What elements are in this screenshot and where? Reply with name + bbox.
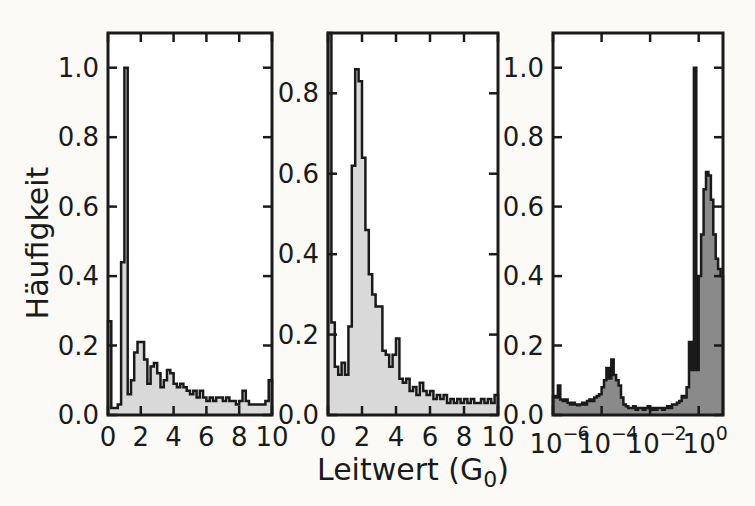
panel-histogram-linear-1 — [108, 33, 272, 415]
histogram-linear-2-ytick-label: 0.4 — [278, 241, 319, 267]
histogram-log-xtick-label: 10−2 — [627, 424, 686, 457]
histogram-linear-2-ytick-label: 0.6 — [278, 161, 319, 187]
panel-histogram-linear-2 — [328, 33, 498, 415]
histogram-linear-1-ytick-label: 0.4 — [58, 263, 99, 289]
conductance-histogram-figure: Häufigkeit Leitwert (G0) 0.00.20.40.60.8… — [0, 0, 755, 506]
histogram-linear-2-xtick-label: 6 — [422, 424, 439, 450]
histogram-log-ytick-label: 0.6 — [503, 194, 544, 220]
histogram-log-ytick-label: 0.4 — [503, 263, 544, 289]
log-tick-base: 10 — [627, 429, 660, 459]
histogram-linear-1-xtick-label: 2 — [133, 424, 150, 450]
histogram-linear-2-ytick-label: 0.8 — [278, 80, 319, 106]
histogram-log-ytick-label: 1.0 — [503, 55, 544, 81]
histogram-linear-2-xtick-label: 2 — [354, 424, 371, 450]
histogram-linear-1-ytick-label: 0.6 — [58, 194, 99, 220]
histogram-linear-1-ytick-label: 0.0 — [58, 402, 99, 428]
histogram-linear-2-xtick-label: 0 — [320, 424, 337, 450]
x-axis-label-suffix: ) — [497, 452, 509, 487]
histogram-linear-2-ytick-label: 0.0 — [278, 402, 319, 428]
histogram-linear-1-ytick-label: 1.0 — [58, 55, 99, 81]
histogram-log-xtick-label: 100 — [683, 424, 727, 457]
histogram-linear-1-xtick-label: 6 — [198, 424, 215, 450]
histogram-log-ytick-label: 0.2 — [503, 333, 544, 359]
log-tick-base: 10 — [578, 429, 611, 459]
log-tick-exponent: 0 — [716, 422, 727, 444]
histogram-linear-2-xtick-label: 4 — [388, 424, 405, 450]
panel-histogram-log — [553, 33, 723, 415]
log-tick-base: 10 — [683, 429, 716, 459]
histogram-log-ytick-label: 0.8 — [503, 124, 544, 150]
y-axis-label: Häufigkeit — [20, 167, 55, 320]
x-axis-label: Leitwert (G0) — [317, 452, 509, 492]
histogram-linear-1-xtick-label: 0 — [100, 424, 117, 450]
histogram-linear-2-ytick-label: 0.2 — [278, 322, 319, 348]
histogram-linear-1-ytick-label: 0.2 — [58, 333, 99, 359]
histogram-linear-1-xtick-label: 4 — [165, 424, 182, 450]
histogram-linear-1-xtick-label: 8 — [231, 424, 248, 450]
histogram-linear-1-ytick-label: 0.8 — [58, 124, 99, 150]
histogram-linear-2-xtick-label: 8 — [456, 424, 473, 450]
x-axis-label-text: Leitwert (G — [317, 452, 483, 487]
x-axis-label-subscript: 0 — [483, 467, 497, 492]
log-tick-base: 10 — [529, 429, 562, 459]
